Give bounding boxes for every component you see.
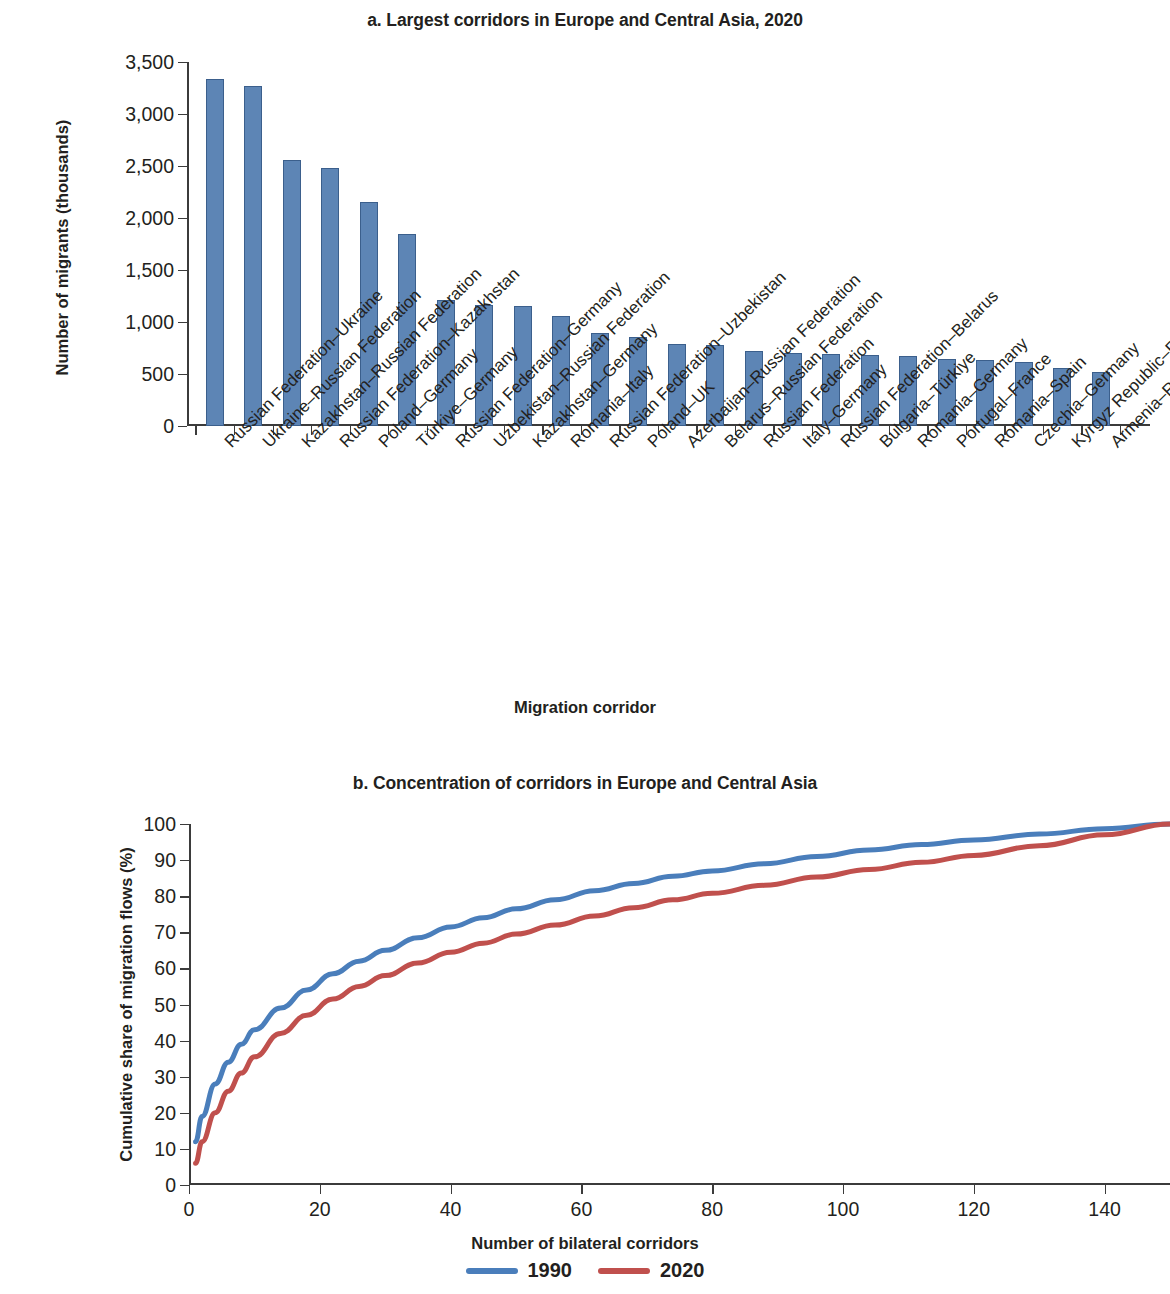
legend-label: 2020 [660,1259,705,1282]
panel-b-x-tick [712,1185,713,1194]
panel-b-y-tick [180,824,189,825]
panel-b-series-line-1990 [196,824,1170,1142]
panel-b-legend: 19902020 [0,1259,1170,1282]
figure-page: a. Largest corridors in Europe and Centr… [0,0,1170,1294]
panel-b-line-chart: b. Concentration of corridors in Europe … [0,0,1170,1294]
panel-b-x-tick [974,1185,975,1194]
panel-b-y-tick-label: 50 [154,993,176,1016]
legend-item-2020[interactable]: 2020 [598,1259,705,1282]
panel-b-y-tick-label: 10 [154,1137,176,1160]
panel-b-y-tick [180,896,189,897]
panel-b-x-tick-label: 60 [571,1198,593,1221]
panel-b-x-tick [581,1185,582,1194]
panel-b-y-tick-label: 80 [154,885,176,908]
panel-b-y-tick-label: 90 [154,849,176,872]
panel-b-x-tick [451,1185,452,1194]
panel-b-y-tick [180,1077,189,1078]
legend-line-swatch-icon [598,1268,650,1274]
panel-b-x-tick [320,1185,321,1194]
panel-b-y-axis-title: Cumulative share of migration flows (%) [117,815,136,1195]
panel-b-y-tick-label: 70 [154,921,176,944]
panel-b-series-group [189,824,1170,1185]
panel-b-x-axis-title: Number of bilateral corridors [0,1234,1170,1253]
panel-b-x-tick-label: 80 [701,1198,723,1221]
panel-b-y-tick [180,860,189,861]
panel-b-y-tick [180,1149,189,1150]
panel-b-x-tick [843,1185,844,1194]
legend-line-swatch-icon [466,1268,518,1274]
panel-b-x-tick [1105,1185,1106,1194]
panel-b-y-tick [180,1113,189,1114]
panel-b-y-tick [180,1185,189,1186]
panel-b-x-tick-label: 40 [440,1198,462,1221]
panel-b-y-tick [180,1041,189,1042]
legend-label: 1990 [528,1259,573,1282]
panel-b-y-tick [180,968,189,969]
panel-b-x-tick-label: 140 [1088,1198,1121,1221]
panel-b-x-tick-label: 20 [309,1198,331,1221]
panel-b-y-tick-label: 20 [154,1101,176,1124]
panel-b-y-tick-label: 0 [165,1174,176,1197]
panel-b-x-tick-label: 100 [827,1198,860,1221]
panel-b-y-tick-label: 100 [143,813,176,836]
panel-b-y-tick [180,932,189,933]
panel-b-title: b. Concentration of corridors in Europe … [0,773,1170,794]
panel-b-x-tick-label: 120 [958,1198,991,1221]
panel-b-y-tick [180,1005,189,1006]
panel-b-y-tick-label: 40 [154,1029,176,1052]
panel-b-x-tick-label: 0 [184,1198,195,1221]
legend-item-1990[interactable]: 1990 [466,1259,573,1282]
panel-b-plot-area: 0102030405060708090100 02040608010012014… [189,824,1170,1185]
panel-b-x-tick [189,1185,190,1194]
panel-b-y-tick-label: 30 [154,1065,176,1088]
panel-b-y-tick-label: 60 [154,957,176,980]
